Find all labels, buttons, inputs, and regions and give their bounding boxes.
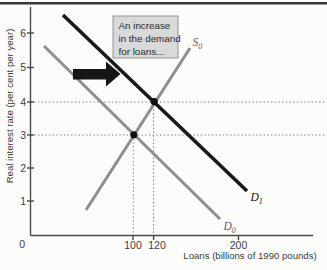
demand-d1-label: D1: [250, 191, 263, 206]
demand-d1-sub: 1: [259, 197, 263, 206]
y-tick-label-1: 1: [20, 195, 26, 207]
y-tick-label-3: 3: [20, 129, 26, 141]
x-tick-label-120: 120: [148, 239, 166, 251]
annotation-line-1: An increase: [119, 20, 171, 31]
x-axis-title: Loans (billions of 1990 pounds): [183, 250, 316, 261]
equilibrium-dot-new: [151, 98, 158, 105]
y-tick-label-4: 4: [20, 96, 26, 108]
equilibrium-dot-initial: [130, 131, 137, 138]
demand-d0-label: D0: [223, 220, 236, 235]
annotation-line-2: in the demand: [119, 33, 181, 44]
supply-label-sub: 0: [198, 42, 202, 51]
supply-curve-label: S0: [193, 36, 203, 51]
x-tick-label-100: 100: [124, 239, 142, 251]
dotted-guides: [31, 102, 327, 238]
loanable-funds-figure: 6 5 4 3 2 1 0 100 120 200 Loans (billion…: [0, 0, 327, 270]
y-tick-label-6: 6: [20, 27, 26, 39]
demand-d0-sub: 0: [232, 226, 236, 235]
annotation-line-3: for loans...: [119, 46, 165, 57]
y-tick-label-2: 2: [20, 162, 26, 174]
y-axis-title: Real interest rate (per cent per year): [4, 29, 15, 184]
origin-label: 0: [19, 238, 25, 250]
y-tick-label-5: 5: [20, 61, 26, 73]
y-tick-labels: 6 5 4 3 2 1 0: [19, 27, 26, 251]
